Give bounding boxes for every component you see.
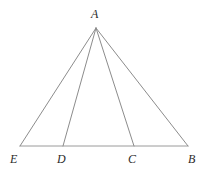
segment-AD [63, 28, 96, 146]
vertex-label-D: D [57, 153, 66, 165]
geometry-figure: AEDCB [0, 0, 203, 176]
vertex-label-C: C [128, 153, 136, 165]
vertex-label-A: A [91, 8, 98, 20]
geometry-canvas [0, 0, 203, 176]
segment-AC [96, 28, 134, 146]
segment-AE [20, 28, 96, 146]
vertex-label-E: E [10, 153, 17, 165]
vertex-label-B: B [188, 153, 195, 165]
segment-AB [96, 28, 188, 146]
segments-group [20, 28, 188, 146]
